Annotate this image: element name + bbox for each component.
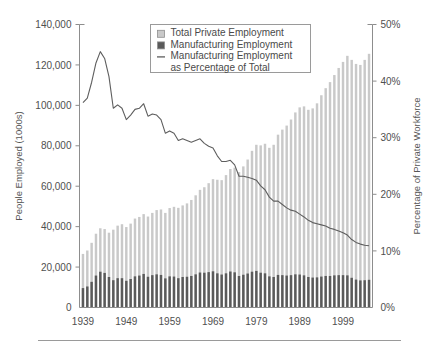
bar-group [320,95,322,307]
y-tick-label: 100,000 [35,100,72,111]
legend-swatch-manufacturing [158,42,165,49]
bar-manufacturing [281,275,283,307]
chart-legend: Total Private EmploymentManufacturing Em… [151,25,311,73]
bar-manufacturing [363,280,365,307]
bar-manufacturing [220,275,222,308]
bar-group [138,217,140,308]
bar-group [303,106,305,307]
bar-manufacturing [121,278,123,307]
bar-manufacturing [242,275,244,308]
bar-manufacturing [324,276,326,308]
bar-manufacturing [134,276,136,307]
bars-layer [82,54,371,308]
legend-item-label: Manufacturing Employment [171,50,293,61]
bar-manufacturing [103,273,105,308]
bar-manufacturing [255,271,257,308]
bar-manufacturing [229,272,231,308]
y2-tick-label: 0% [381,302,396,313]
bar-group [220,180,222,307]
bar-manufacturing [212,271,214,307]
bar-manufacturing [199,273,201,308]
bar-manufacturing [86,286,88,307]
bar-group [355,64,357,308]
bar-manufacturing [138,276,140,308]
bar-group [242,166,244,307]
bar-manufacturing [160,275,162,308]
bar-group [233,168,235,308]
x-tick-label: 1939 [72,316,95,327]
bar-manufacturing [320,277,322,308]
bar-total-private [359,65,361,308]
bar-manufacturing [225,273,227,307]
bar-manufacturing [298,275,300,308]
bar-manufacturing [216,273,218,307]
bar-manufacturing [82,288,84,307]
bar-group [99,228,101,307]
bar-manufacturing [155,274,157,307]
bar-manufacturing [307,277,309,308]
bar-manufacturing [329,276,331,308]
bar-manufacturing [251,272,253,308]
bar-manufacturing [316,277,318,307]
x-tick-label: 1999 [332,316,355,327]
bar-group [147,217,149,308]
bar-manufacturing [359,280,361,307]
bar-manufacturing [129,279,131,308]
bar-group [216,180,218,308]
bar-group [350,60,352,308]
bar-group [337,68,339,308]
y-tick-label: 140,000 [35,19,72,30]
bar-group [212,179,214,307]
bar-group [121,224,123,307]
bar-group [246,160,248,308]
bar-manufacturing [311,278,313,308]
bar-group [108,233,110,308]
bar-group [238,172,240,307]
bar-manufacturing [238,276,240,308]
bar-manufacturing [168,276,170,307]
bar-manufacturing [264,273,266,307]
bar-total-private [324,88,326,307]
bar-total-private [337,68,339,308]
bar-group [164,213,166,308]
bar-manufacturing [186,277,188,308]
bar-manufacturing [151,275,153,307]
x-tick-label: 1969 [202,316,225,327]
bar-manufacturing [268,276,270,307]
bar-group [90,243,92,308]
y2-tick-label: 40% [381,76,401,87]
bar-manufacturing [108,277,110,308]
bar-manufacturing [207,272,209,307]
bar-manufacturing [90,282,92,308]
bar-group [251,151,253,308]
bar-group [363,60,365,308]
bar-group [298,107,300,307]
bar-group [151,213,153,308]
y2-tick-label: 30% [381,132,401,143]
bar-manufacturing [333,275,335,307]
bar-group [155,210,157,307]
y-tick-label: 80,000 [41,140,72,151]
bar-manufacturing [181,277,183,308]
bar-group [186,203,188,307]
bar-manufacturing [116,278,118,307]
bar-group [268,148,270,308]
bar-manufacturing [99,272,101,308]
bar-total-private [346,56,348,308]
bar-total-private [320,95,322,307]
bar-manufacturing [142,274,144,308]
bar-manufacturing [294,274,296,307]
y2-axis-label: Percentage of Private Workforce [411,97,422,234]
bar-group [368,54,370,308]
employment-chart-figure: 020,00040,00060,00080,000100,000120,0001… [0,0,439,356]
bar-total-private [329,82,331,307]
bar-manufacturing [350,278,352,308]
bar-group [272,145,274,308]
bar-group [181,205,183,307]
bar-group [190,200,192,308]
bar-group [311,108,313,307]
bar-manufacturing [346,275,348,307]
bar-manufacturing [194,274,196,307]
bar-manufacturing [95,276,97,308]
bar-total-private [316,103,318,307]
